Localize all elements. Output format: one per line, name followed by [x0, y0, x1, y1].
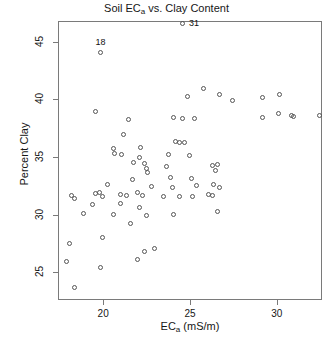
data-point: [277, 92, 282, 97]
data-point: [190, 194, 195, 199]
data-point: [317, 113, 322, 118]
data-point: [152, 246, 157, 251]
data-point: [230, 98, 235, 103]
data-point: [137, 205, 142, 210]
data-point: [187, 153, 192, 158]
data-point: [140, 193, 145, 198]
data-point: [111, 212, 116, 217]
x-axis-tick-label: 20: [88, 308, 118, 319]
data-point: [72, 285, 77, 290]
data-point: [138, 145, 143, 150]
y-axis-tick-label: 45: [34, 30, 45, 52]
data-point: [189, 176, 194, 181]
data-point: [98, 265, 103, 270]
x-axis-label: ECa (mS/m): [58, 320, 322, 332]
data-point: [144, 213, 149, 218]
data-point: [124, 193, 129, 198]
data-point: [119, 152, 124, 157]
x-axis-tick-label: 25: [175, 308, 205, 319]
y-axis-tick-label: 35: [34, 146, 45, 168]
data-point: [217, 92, 222, 97]
y-axis-tick: [53, 272, 58, 273]
y-axis-label: Percent Clay: [18, 94, 30, 214]
data-point: [291, 114, 296, 119]
data-point: [93, 109, 98, 114]
data-point: [217, 185, 222, 190]
point-annotation: 18: [95, 37, 105, 47]
data-point: [192, 116, 197, 121]
data-point: [168, 175, 173, 180]
x-axis-label-subscript: a: [176, 325, 180, 334]
data-point: [100, 194, 105, 199]
data-point: [118, 192, 123, 197]
data-point: [166, 152, 171, 157]
x-axis-tick: [190, 300, 191, 305]
y-axis-tick-label: 40: [34, 88, 45, 110]
data-point: [130, 177, 135, 182]
data-point: [180, 21, 185, 26]
data-point: [161, 194, 166, 199]
y-axis-tick: [53, 99, 58, 100]
data-point: [194, 183, 199, 188]
y-axis-tick-label: 30: [34, 203, 45, 225]
data-point: [185, 94, 190, 99]
data-point: [121, 132, 126, 137]
y-axis-tick: [53, 215, 58, 216]
y-axis-tick-label: 25: [34, 261, 45, 283]
data-point: [137, 155, 142, 160]
data-point: [81, 211, 86, 216]
data-points-layer: 1831: [0, 0, 333, 342]
x-axis-tick: [103, 300, 104, 305]
data-point: [260, 115, 265, 120]
data-point: [177, 194, 182, 199]
data-point: [98, 50, 103, 55]
data-point: [112, 151, 117, 156]
data-point: [135, 257, 140, 262]
data-point: [211, 182, 216, 187]
data-point: [64, 259, 69, 264]
data-point: [142, 249, 147, 254]
data-point: [210, 193, 215, 198]
x-axis-tick: [277, 300, 278, 305]
data-point: [260, 95, 265, 100]
data-point: [105, 182, 110, 187]
x-axis-label-rest: (mS/m): [180, 320, 219, 332]
data-point: [67, 241, 72, 246]
data-point: [215, 162, 220, 167]
data-point: [118, 201, 123, 206]
data-point: [170, 185, 175, 190]
data-point: [171, 212, 176, 217]
data-point: [276, 111, 281, 116]
data-point: [128, 221, 133, 226]
data-point: [131, 160, 136, 165]
data-point: [145, 170, 150, 175]
data-point: [201, 86, 206, 91]
data-point: [100, 235, 105, 240]
point-annotation: 31: [189, 18, 199, 28]
y-axis-tick: [53, 157, 58, 158]
data-point: [182, 140, 187, 145]
data-point: [215, 209, 220, 214]
data-point: [213, 168, 218, 173]
data-point: [180, 116, 185, 121]
scatter-plot-figure: Soil ECa vs. Clay Content 1831 ECa (mS/m…: [0, 0, 333, 342]
data-point: [177, 140, 182, 145]
data-point: [90, 202, 95, 207]
x-axis-tick-label: 30: [262, 308, 292, 319]
data-point: [126, 117, 131, 122]
x-axis-label-main: EC: [161, 320, 176, 332]
y-axis-tick: [53, 42, 58, 43]
data-point: [164, 164, 169, 169]
data-point: [72, 196, 77, 201]
data-point: [149, 184, 154, 189]
data-point: [171, 115, 176, 120]
